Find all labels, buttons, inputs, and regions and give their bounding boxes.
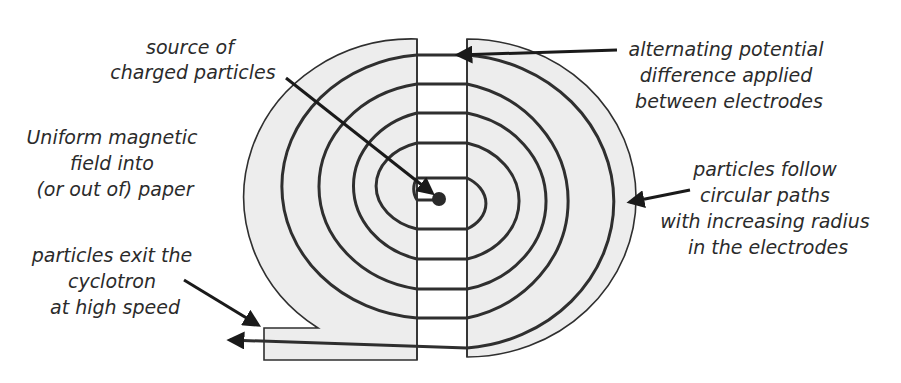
cyclotron-diagram: source of charged particles alternating … xyxy=(0,0,901,383)
label-magnetic-field: Uniform magnetic field into (or out of) … xyxy=(26,126,203,200)
label-alternating: alternating potential difference applied… xyxy=(629,38,830,112)
label-circular-paths: particles follow circular paths with inc… xyxy=(660,158,875,258)
arrow-circular xyxy=(630,190,690,202)
arrow-exit xyxy=(184,280,258,325)
label-exit: particles exit the cyclotron at high spe… xyxy=(31,244,199,318)
particle-source xyxy=(432,192,446,206)
label-source: source of charged particles xyxy=(110,36,275,83)
